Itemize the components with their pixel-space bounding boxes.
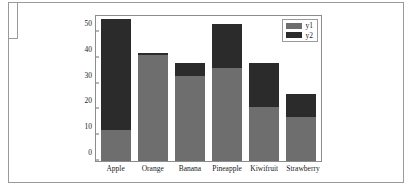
bar-segment-y1[interactable] <box>249 107 279 161</box>
y-axis-tick-label: 40 <box>74 44 92 53</box>
bar-segment-y1[interactable] <box>101 130 131 161</box>
y-axis-tick-label: 0 <box>74 148 92 157</box>
legend-label: y1 <box>306 22 314 30</box>
bar-segment-y2[interactable] <box>286 94 316 117</box>
x-axis-category-label: Orange <box>138 164 168 173</box>
bar-group[interactable] <box>249 16 279 161</box>
legend-entry[interactable]: y1 <box>286 22 314 30</box>
bar-segment-y1[interactable] <box>212 68 242 161</box>
x-axis-labels: AppleOrangeBananaPineappleKiwifruitStraw… <box>95 164 322 173</box>
x-axis-tick-mark <box>191 158 192 161</box>
x-axis-category-label: Strawberry <box>286 164 316 173</box>
bar-segment-y2[interactable] <box>175 63 205 76</box>
bar-group[interactable] <box>101 16 131 161</box>
x-axis-category-label: Kiwifruit <box>249 164 279 173</box>
y-axis-tick-label: 50 <box>74 19 92 28</box>
legend-entry[interactable]: y2 <box>286 32 314 40</box>
x-axis-tick-mark <box>265 158 266 161</box>
bar-group[interactable] <box>175 16 205 161</box>
bar-segment-y2[interactable] <box>101 19 131 130</box>
bar-segment-y1[interactable] <box>286 117 316 161</box>
page-corner-rule <box>9 3 18 39</box>
y-axis-tick-label: 20 <box>74 96 92 105</box>
chart-legend: y1y2 <box>282 19 319 42</box>
stacked-bar-chart: 01020304050 y1y2 AppleOrangeBananaPineap… <box>85 13 325 183</box>
bar-group[interactable] <box>138 16 168 161</box>
document-page-frame: 01020304050 y1y2 AppleOrangeBananaPineap… <box>8 2 404 183</box>
legend-swatch-icon <box>286 32 302 38</box>
legend-label: y2 <box>306 32 314 40</box>
y-axis-tick-label: 10 <box>74 122 92 131</box>
x-axis-tick-mark <box>228 158 229 161</box>
bar-segment-y2[interactable] <box>249 63 279 107</box>
x-axis-tick-mark <box>302 158 303 161</box>
x-axis-category-label: Apple <box>101 164 131 173</box>
x-axis-category-label: Banana <box>175 164 205 173</box>
y-axis-tick-label: 30 <box>74 70 92 79</box>
bar-segment-y2[interactable] <box>212 24 242 68</box>
bar-segment-y1[interactable] <box>138 55 168 161</box>
legend-swatch-icon <box>286 23 302 29</box>
x-axis-category-label: Pineapple <box>212 164 242 173</box>
x-axis-tick-mark <box>117 158 118 161</box>
plot-area: 01020304050 y1y2 <box>95 15 322 162</box>
bar-segment-y1[interactable] <box>175 76 205 161</box>
x-axis-tick-mark <box>154 158 155 161</box>
bar-group[interactable] <box>212 16 242 161</box>
